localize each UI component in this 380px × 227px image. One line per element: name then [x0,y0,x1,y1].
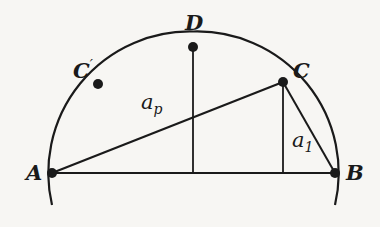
a-p-base: a [141,90,154,114]
label-C-prime: C′ [73,60,93,81]
semicircle-diagram: A B C C′ D ap a1 [0,0,380,227]
prime-mark: ′ [90,57,93,73]
label-a-1: a1 [292,130,313,151]
point-D [188,42,198,52]
a-1-base: a [292,128,305,152]
label-C-text: C [293,58,310,83]
label-C: C [293,60,310,81]
label-B: B [346,162,364,183]
label-C-prime-text: C [73,58,90,83]
label-D-text: D [185,10,203,35]
chord-CB [283,82,335,173]
label-A-text: A [26,160,42,185]
point-B [330,168,340,178]
point-A [47,168,57,178]
point-C [278,77,288,87]
point-C-prime [93,79,103,89]
chord-AC [52,82,283,173]
label-a-p: ap [141,92,163,113]
label-A: A [26,162,42,183]
a-p-subscript: p [154,101,163,117]
a-1-subscript: 1 [305,139,314,155]
label-B-text: B [346,160,364,185]
label-D: D [185,12,203,33]
